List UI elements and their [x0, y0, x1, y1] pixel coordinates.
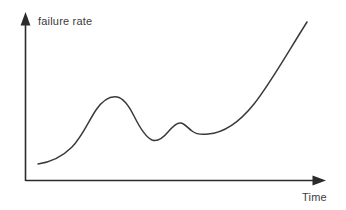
y-axis-label: failure rate: [38, 15, 92, 27]
x-axis-arrowhead: [313, 176, 327, 186]
y-axis-arrowhead: [21, 12, 31, 26]
failure-rate-chart: failure rate Time: [0, 0, 346, 210]
chart-canvas: failure rate Time: [0, 0, 346, 210]
failure-rate-curve: [38, 22, 307, 164]
x-axis-label: Time: [302, 191, 327, 203]
